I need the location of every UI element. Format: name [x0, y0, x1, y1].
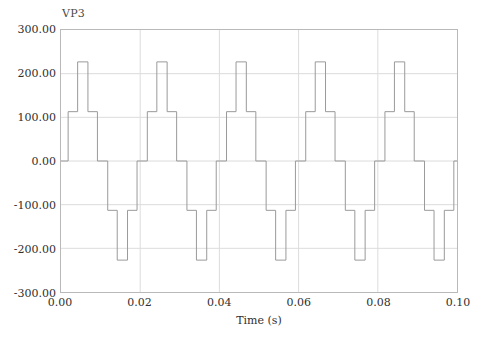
- y-tick-label: 300.00: [0, 23, 56, 36]
- x-tick-label: 0.04: [207, 296, 232, 309]
- y-tick-label: 0.00: [0, 155, 56, 168]
- y-axis-tick-labels: 300.00200.00100.000.00-100.00-200.00-300…: [0, 29, 56, 293]
- chart-figure: VP3 300.00200.00100.000.00-100.00-200.00…: [0, 0, 480, 337]
- x-axis-tick-labels: 0.000.020.040.060.080.10: [60, 296, 458, 312]
- series-label: VP3: [62, 7, 85, 20]
- x-tick-label: 0.06: [287, 296, 312, 309]
- x-tick-label: 0.08: [366, 296, 391, 309]
- y-tick-label: 200.00: [0, 67, 56, 80]
- waveform-trace: [61, 30, 457, 292]
- x-tick-label: 0.00: [48, 296, 73, 309]
- plot-area: [60, 29, 458, 293]
- x-tick-label: 0.10: [446, 296, 471, 309]
- y-tick-label: -200.00: [0, 243, 56, 256]
- y-tick-label: 100.00: [0, 111, 56, 124]
- y-tick-label: -100.00: [0, 199, 56, 212]
- x-axis-title: Time (s): [60, 314, 458, 327]
- x-tick-label: 0.02: [127, 296, 152, 309]
